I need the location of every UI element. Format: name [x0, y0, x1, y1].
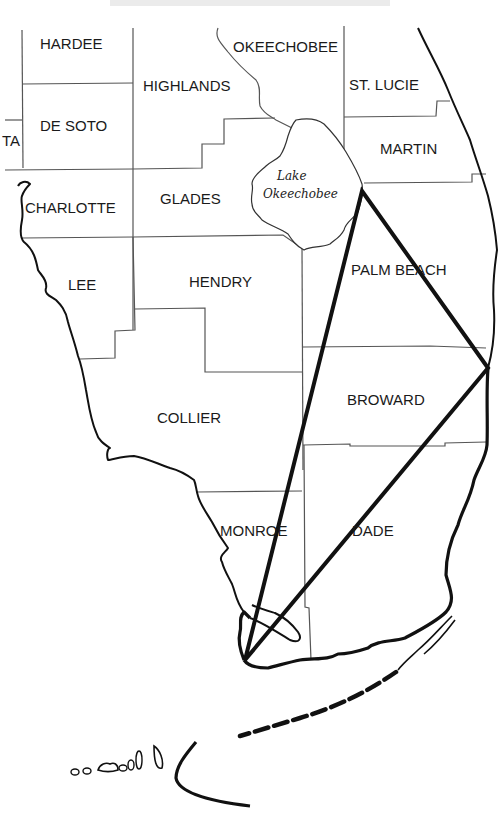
county-label-st-lucie: ST. LUCIE [349, 76, 419, 93]
county-label-okeechobee: OKEECHOBEE [233, 38, 338, 55]
county-label-palm-beach: PALM BEACH [351, 261, 447, 278]
lake-okeechobee: Lake Okeechobee [251, 119, 362, 250]
county-label-de-soto: DE SOTO [40, 117, 107, 134]
south-florida-county-map: Lake Okeechobee HARDEE OKEECHOBEE HIGHLA… [0, 0, 504, 815]
county-label-collier: COLLIER [157, 409, 221, 426]
county-label-dade: DADE [352, 522, 394, 539]
county-label-broward: BROWARD [347, 391, 425, 408]
lake-label-line2: Okeechobee [263, 187, 338, 201]
county-label-lee: LEE [68, 276, 96, 293]
county-label-hendry: HENDRY [189, 273, 252, 290]
county-label-martin: MARTIN [380, 140, 437, 157]
county-label-hardee: HARDEE [40, 35, 103, 52]
county-label-glades: GLADES [160, 190, 221, 207]
county-label-monroe: MONROE [220, 522, 288, 539]
county-labels: HARDEE OKEECHOBEE HIGHLANDS ST. LUCIE TA… [2, 35, 447, 539]
lake-label-line1: Lake [276, 169, 307, 183]
county-label-sarasota-fragment: TA [2, 132, 20, 149]
county-label-charlotte: CHARLOTTE [25, 199, 116, 216]
county-label-highlands: HIGHLANDS [143, 77, 231, 94]
map-title [110, 0, 390, 6]
florida-keys [71, 616, 455, 806]
